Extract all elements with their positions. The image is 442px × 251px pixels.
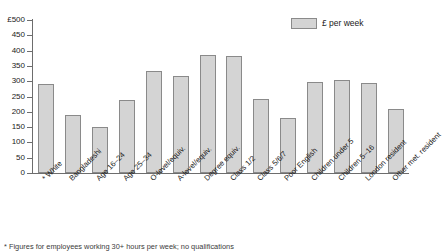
bar [38,84,54,173]
y-axis-label: 250 [0,93,25,101]
legend-swatch-icon [291,18,317,29]
y-axis-label: £500 [0,16,25,24]
y-axis-label: 0 [0,169,25,177]
y-axis-label: 150 [0,123,25,131]
y-axis-label: 200 [0,108,25,116]
y-axis-label: 350 [0,62,25,70]
y-axis-label: 400 [0,47,25,55]
legend-label: £ per week [322,19,364,28]
bars-group [33,20,409,173]
y-axis-label: 50 [0,154,25,162]
chart-footnote: * Figures for employees working 30+ hour… [4,242,419,251]
chart-legend: £ per week [291,18,364,29]
bar [253,99,269,173]
y-axis-label: 300 [0,77,25,85]
y-axis-tick [27,173,33,174]
bar [119,100,135,173]
x-axis-line [32,173,409,174]
y-axis-label: 450 [0,31,25,39]
y-axis-label: 100 [0,138,25,146]
